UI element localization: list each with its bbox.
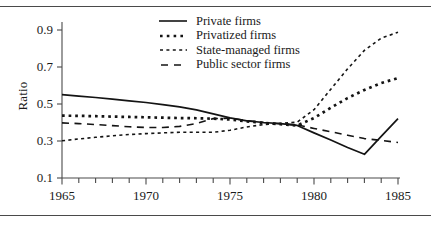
y-tick-label: 0.5	[19, 96, 53, 112]
x-tick-label: 1970	[123, 188, 169, 204]
legend-item-privatized-firms: Privatized firms	[158, 29, 300, 44]
y-tick-label: 0.9	[19, 22, 53, 38]
fine-dotted-line-icon	[158, 44, 188, 56]
legend-item-private-firms: Private firms	[158, 14, 300, 29]
x-tick-label: 1965	[39, 188, 85, 204]
legend-label: State-managed firms	[188, 43, 300, 58]
chart-figure: Ratio Private firms Privatized firms Sta…	[0, 0, 431, 227]
x-tick-label: 1980	[291, 188, 337, 204]
y-tick-label: 0.3	[19, 133, 53, 149]
y-tick-label: 0.1	[19, 170, 53, 186]
legend-label: Privatized firms	[188, 28, 276, 43]
x-tick-label: 1985	[375, 188, 421, 204]
long-dashed-line-icon	[158, 59, 188, 71]
legend-item-public-sector-firms: Public sector firms	[158, 58, 300, 73]
legend-item-state-managed-firms: State-managed firms	[158, 43, 300, 58]
x-tick-label: 1975	[207, 188, 253, 204]
solid-line-icon	[158, 15, 188, 27]
legend-label: Private firms	[188, 14, 261, 29]
legend-label: Public sector firms	[188, 57, 290, 72]
y-tick-label: 0.7	[19, 59, 53, 75]
thick-dotted-line-icon	[158, 30, 188, 42]
chart-legend: Private firms Privatized firms State-man…	[158, 14, 300, 72]
